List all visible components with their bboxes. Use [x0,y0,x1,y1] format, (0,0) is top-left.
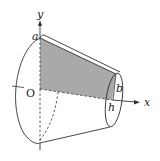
y-axis-label: y [37,9,43,20]
frustum-diagram: y x O a b h [0,0,160,161]
x-axis-left [12,86,24,88]
label-b: b [116,83,123,94]
x-axis [112,100,136,102]
origin-label: O [26,88,35,99]
bottom-edge [40,127,110,143]
diagram-graphics [0,0,160,161]
label-h: h [108,102,115,113]
label-a: a [32,31,39,42]
x-axis-arrow-icon [134,100,140,105]
rotated-profile-hidden [40,92,58,140]
top-edge-cap [40,35,44,38]
x-axis-label: x [144,97,150,108]
